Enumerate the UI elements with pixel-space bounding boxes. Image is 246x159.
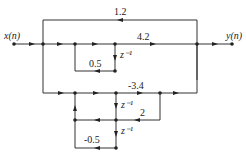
delay-lower-1: z⁻¹ — [121, 100, 133, 110]
signal-flow-diagram: x(n) y(n) 1.2 4.2 0.5 z⁻¹ -3.4 z⁻¹ 2 z⁻¹… — [0, 0, 246, 159]
delay-upper: z⁻¹ — [120, 50, 132, 60]
output-label: y(n) — [226, 31, 242, 41]
gain-neg-0-5: -0.5 — [84, 135, 100, 145]
gain-2: 2 — [140, 108, 145, 118]
delay-lower-2: z⁻¹ — [121, 126, 133, 136]
gain-4-2: 4.2 — [137, 32, 150, 42]
gain-neg-3-4: -3.4 — [128, 81, 144, 91]
gain-1-2: 1.2 — [114, 7, 127, 17]
input-label: x(n) — [4, 31, 20, 41]
gain-0-5: 0.5 — [89, 59, 102, 69]
